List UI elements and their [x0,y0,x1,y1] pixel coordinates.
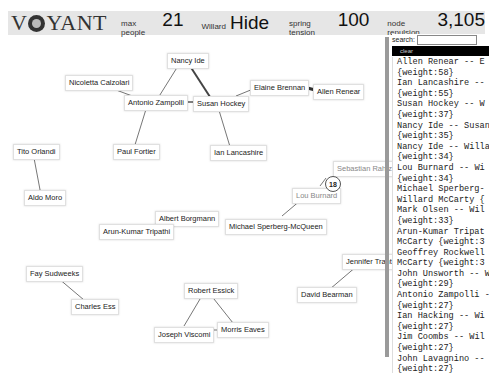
connection-item[interactable]: Geoffrey Rockwell -- [397,248,489,259]
connection-item[interactable]: Mark Olsen -- Wil [397,205,489,216]
connections-list[interactable]: Allen Renear -- E{weight:58}Ian Lancashi… [392,57,489,373]
node-paul-fortier[interactable]: Paul Fortier [113,144,160,160]
connection-weight: {weight:58} [397,68,489,79]
connection-name: Ian Lancashire [397,78,469,88]
connection-weight: McCarty {weight:3 [397,258,489,269]
node-tito-orlandi[interactable]: Tito Orlandi [13,144,60,160]
connection-item[interactable]: Ian Hacking -- Wi [397,311,489,322]
node-count-badge: 18 [325,176,341,192]
connection-name: Nancy Ide [397,121,443,131]
connection-item[interactable]: John Unsworth -- W [397,269,489,280]
node-elaine-brennan[interactable]: Elaine Brennan [250,80,309,96]
edge [218,107,231,150]
node-charles-ess[interactable]: Charles Ess [71,299,119,315]
connection-name: John Lavagnino [397,354,469,364]
connection-weight: {weight:37} [397,110,489,121]
connection-weight: {weight:27} [397,364,489,373]
connection-name: Lou Burnard [397,163,454,173]
connection-item[interactable]: Nancy Ide -- Willa [397,142,489,153]
connection-partner: E [480,57,485,67]
willard-label: Willard [202,22,226,31]
node-repulsion-value[interactable]: 3,105 [437,9,485,31]
connection-weight: {weight:29} [397,279,489,290]
connection-partner: Wil [469,205,484,215]
connections-panel: search: clear Allen Renear -- E{weight:5… [392,34,489,360]
max-people-value[interactable]: 21 [162,9,183,31]
connection-item[interactable]: Lou Burnard -- Wi [397,163,489,174]
connection-partner: W [485,269,489,279]
connection-item[interactable]: Susan Hockey -- W [397,99,489,110]
logo-globe-icon [28,15,45,32]
connection-name: Jim Coombs [397,332,449,342]
connection-name: Antonio Zampolli [397,290,480,300]
connection-name: Nancy Ide [397,142,443,152]
connection-weight: {weight:55} [397,89,489,100]
node-allen-renear[interactable]: Allen Renear [313,84,364,100]
connection-name: Ian Hacking [397,311,454,321]
connection-item[interactable]: Jim Coombs -- Wil [397,332,489,343]
connection-weight: {weight:34} [397,174,489,185]
edge [158,66,178,98]
max-people-control[interactable]: max people 21 [121,9,183,37]
max-people-label: max people [121,19,158,37]
edge [134,106,147,148]
connection-weight: {weight:27} [397,343,489,354]
connection-item[interactable]: John Lavagnino -- [397,354,489,365]
search-row: search: [392,34,489,45]
search-input[interactable] [417,35,477,45]
connection-partner: Willa [464,142,489,152]
willard-hide-value[interactable]: Hide [230,12,269,34]
spring-tension-control[interactable]: spring tension 100 [289,9,369,37]
search-label: search: [392,36,415,43]
connection-item[interactable]: Michael Sperberg- -- [397,184,489,195]
node-fay-sudweeks[interactable]: Fay Sudweeks [26,266,83,282]
connection-name: John Unsworth [397,269,464,279]
connection-item[interactable]: Arun-Kumar Tripat -- [397,227,489,238]
connection-name: Allen Renear [397,57,459,67]
node-robert-essick[interactable]: Robert Essick [184,283,238,299]
spring-tension-label: spring tension [289,19,334,37]
connection-name: Arun-Kumar Tripat [397,227,485,237]
connection-partner: Susan [464,121,489,131]
connection-name: Michael Sperberg- [397,184,485,194]
connection-weight: {weight:35} [397,131,489,142]
node-arun-kumar-tripathi[interactable]: Arun-Kumar Tripathi [99,224,174,240]
connection-item[interactable]: Antonio Zampolli -- [397,290,489,301]
connection-name: Geoffrey Rockwell [397,248,485,258]
connection-name: Susan Hockey [397,99,459,109]
node-nancy-ide[interactable]: Nancy Ide [167,53,209,69]
connection-weight: {weight:33} [397,216,489,227]
node-morris-eaves[interactable]: Morris Eaves [217,322,269,338]
edge [190,66,212,100]
voyant-logo: VYANT [11,12,107,34]
connection-partner: Wi [474,311,484,321]
node-nicoletta-calzolari[interactable]: Nicoletta Calzolari [65,75,133,91]
node-david-bearman[interactable]: David Bearman [297,287,357,303]
connection-item[interactable]: Nancy Ide -- Susan [397,121,489,132]
node-repulsion-control[interactable]: node repulsion 3,105 [387,9,485,37]
willard-toggle[interactable]: Willard Hide [202,12,270,34]
node-aldo-moro[interactable]: Aldo Moro [24,190,66,206]
connection-partner: W [480,99,485,109]
connection-weight: {weight:27} [397,322,489,333]
connection-weight: McCarty {weight:3 [397,237,489,248]
node-ian-lancashire[interactable]: Ian Lancashire [210,145,267,161]
connection-item[interactable]: Ian Lancashire -- [397,78,489,89]
spring-tension-value[interactable]: 100 [338,9,370,31]
connection-item[interactable]: Allen Renear -- E [397,57,489,68]
connection-name: Mark Olsen [397,205,449,215]
toolbar: VYANT max people 21 Willard Hide spring … [8,11,485,35]
node-susan-hockey[interactable]: Susan Hockey [193,96,249,112]
network-graph[interactable]: Nancy Ide Nicoletta Calzolari Antonio Za… [0,37,380,373]
connection-weight: {weight:34} [397,152,489,163]
connection-weight: {weight:27} [397,301,489,312]
connection-partner: Wil [469,332,484,342]
connection-partner: Wi [474,163,484,173]
panel-splitter[interactable] [385,37,389,357]
connection-weight: Willard McCarty { [397,195,489,206]
node-joseph-viscomi[interactable]: Joseph Viscomi [154,327,214,343]
voyant-network-tool: VYANT max people 21 Willard Hide spring … [0,0,489,373]
node-michael-sperberg-mcqueen[interactable]: Michael Sperberg-McQueen [225,219,327,235]
node-antonio-zampolli[interactable]: Antonio Zampolli [124,95,188,111]
clear-button[interactable]: clear [392,46,489,56]
